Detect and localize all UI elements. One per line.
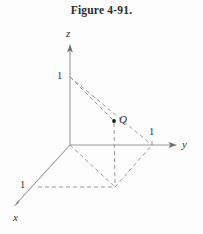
z-axis-label: z [66,27,70,39]
z-axis-tick-label-1: 1 [57,70,62,81]
point-Q-marker [112,119,116,123]
dash-base-origin-to-corner [70,145,115,187]
coordinate-axes-diagram [0,0,203,234]
dash-base-corner-to-y1 [115,145,152,187]
x-axis-line [17,145,70,203]
x-axis-tick-label-1: 1 [20,179,25,190]
dash-Q-vertical-drop [114,123,115,186]
point-Q-label: Q [119,113,127,125]
dash-z1-to-Q [70,77,113,120]
dash-z1-to-y1 [70,77,152,145]
y-axis-label: y [182,138,187,150]
dashed-construction-lines [38,77,152,187]
figure-container: Figure 4-91. [0,0,203,234]
x-axis-label: x [13,211,18,223]
y-axis-tick-label-1: 1 [149,126,154,137]
